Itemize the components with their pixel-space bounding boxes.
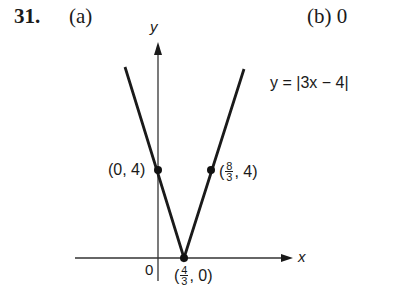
point-4-3-0 (180, 254, 188, 262)
point-label-0-4: (0, 4) (108, 161, 145, 179)
point-label-4-3-0: ( 4 3 , 0) (174, 265, 213, 286)
point-0-4 (154, 166, 162, 174)
fraction-8-3: 8 3 (225, 161, 233, 182)
x-axis-label: x (298, 248, 306, 265)
y-axis-label: y (150, 18, 158, 35)
origin-label: 0 (145, 261, 153, 278)
x-axis-arrow-icon (281, 254, 293, 262)
y-axis-arrow-icon (154, 42, 162, 55)
point-label-8-3-4: ( 8 3 , 4) (219, 161, 258, 182)
fraction-4-3: 4 3 (180, 265, 188, 286)
point-8-3-4 (207, 166, 215, 174)
